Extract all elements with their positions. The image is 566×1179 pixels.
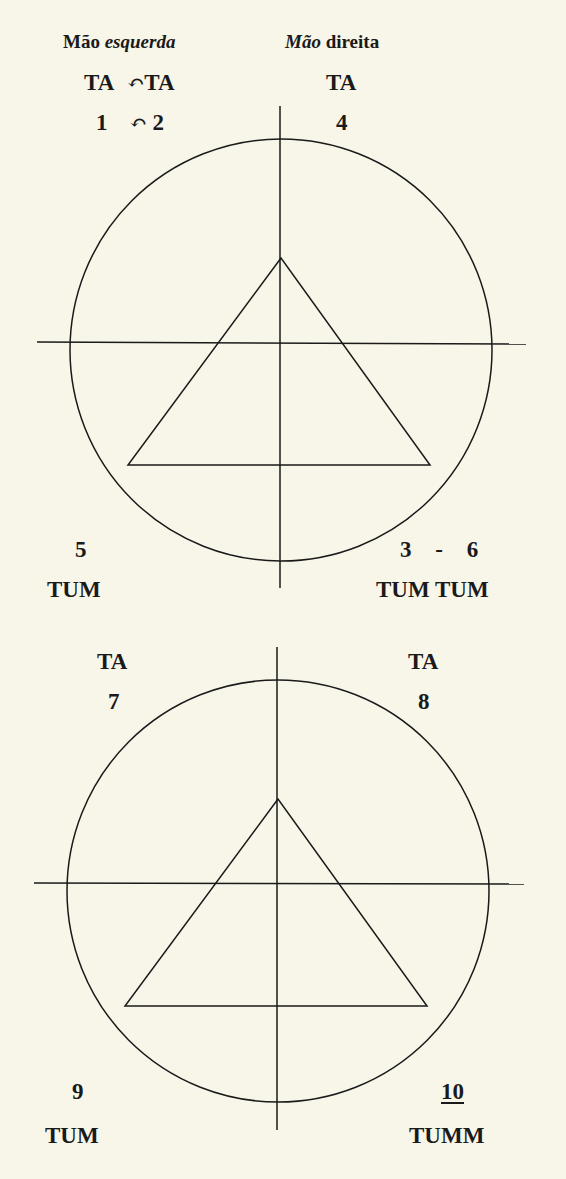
left-hand-word2: esquerda bbox=[105, 31, 176, 52]
bottom-top-right-number: 8 bbox=[418, 690, 430, 713]
number-6: 6 bbox=[467, 537, 479, 562]
top-left-syllables: TA ↶TA bbox=[84, 71, 175, 94]
bottom-top-right-syllable: TA bbox=[408, 650, 438, 673]
left-hand-header: Mão esquerda bbox=[63, 32, 175, 51]
top-left-numbers: 1 ↶ 2 bbox=[96, 111, 164, 134]
left-hand-word1: Mão bbox=[63, 31, 100, 52]
top-right-syllable: TA bbox=[326, 71, 356, 94]
bottom-circle bbox=[67, 680, 489, 1102]
top-right-number: 4 bbox=[336, 111, 348, 134]
bottom-bottom-right-number: 10 bbox=[441, 1080, 464, 1103]
dash: - bbox=[435, 537, 443, 562]
top-bottom-left-number: 5 bbox=[75, 538, 87, 561]
top-triangle bbox=[128, 258, 430, 465]
bottom-bottom-left-syllable: TUM bbox=[45, 1124, 99, 1147]
bottom-bottom-left-number: 9 bbox=[72, 1080, 84, 1103]
right-hand-word1: Mão bbox=[285, 31, 321, 52]
syllable-2: TA bbox=[144, 70, 174, 95]
bottom-diagram bbox=[34, 647, 524, 1130]
bottom-top-left-number: 7 bbox=[108, 690, 120, 713]
bottom-horizontal-axis bbox=[34, 883, 524, 884]
tie-arrow-icon: ↶ bbox=[129, 111, 147, 135]
bottom-bottom-right-syllable: TUMM bbox=[409, 1124, 484, 1147]
top-horizontal-axis bbox=[37, 342, 526, 344]
bottom-triangle bbox=[125, 799, 427, 1006]
right-hand-word2: direita bbox=[326, 31, 379, 52]
top-bottom-left-syllable: TUM bbox=[47, 578, 101, 601]
top-bottom-right-syllables: TUM TUM bbox=[376, 578, 489, 601]
syllable-1: TA bbox=[84, 70, 113, 95]
top-diagram bbox=[37, 106, 526, 588]
number-3: 3 bbox=[400, 537, 412, 562]
top-circle bbox=[70, 139, 492, 561]
bottom-top-left-syllable: TA bbox=[97, 650, 127, 673]
top-bottom-right-numbers: 3 - 6 bbox=[400, 538, 478, 561]
right-hand-header: Mão direita bbox=[285, 32, 379, 51]
number-2: 2 bbox=[153, 110, 165, 135]
tie-arrow-icon: ↶ bbox=[127, 71, 145, 95]
number-1: 1 bbox=[96, 110, 108, 135]
